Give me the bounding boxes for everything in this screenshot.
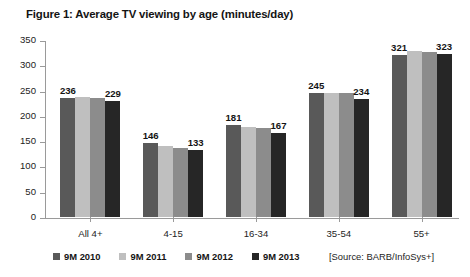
x-axis-category-label: 55+: [413, 228, 429, 239]
legend-label: 9M 2012: [196, 251, 232, 262]
bar[interactable]: [407, 51, 422, 217]
bar-value-label: 133: [183, 137, 209, 148]
bar-value-label: 321: [386, 42, 412, 53]
bar[interactable]: [309, 93, 324, 217]
x-axis-category-label: 16-34: [244, 228, 269, 239]
bar-value-label: 245: [303, 80, 329, 91]
x-axis-tick-mark: [339, 217, 340, 222]
legend-swatch-icon: [119, 253, 126, 260]
bar[interactable]: [226, 125, 241, 217]
bar[interactable]: [354, 99, 369, 217]
x-axis-category-label: 35-54: [327, 228, 352, 239]
y-axis-tick-mark: [40, 218, 45, 219]
bar-value-label: 229: [100, 88, 126, 99]
legend-item[interactable]: 9M 2011: [119, 251, 166, 262]
bar-group: 24523435-54: [308, 40, 370, 217]
figure-container: Figure 1: Average TV viewing by age (min…: [0, 0, 470, 277]
legend-label: 9M 2013: [263, 251, 299, 262]
legend-item[interactable]: 9M 2012: [185, 251, 232, 262]
legend-item[interactable]: 9M 2013: [252, 251, 299, 262]
bar[interactable]: [422, 52, 437, 217]
bar[interactable]: [256, 128, 271, 218]
chart-legend: 9M 20109M 20119M 20129M 2013: [53, 251, 318, 262]
bar-value-label: 323: [431, 41, 457, 52]
bar-group: 236229All 4+: [59, 40, 121, 217]
bar[interactable]: [241, 127, 256, 217]
y-axis-tick-label: 0: [31, 211, 36, 222]
y-axis-tick-label: 100: [20, 160, 36, 171]
bar-group: 18116716-34: [225, 40, 287, 217]
bar-group-bars: [59, 40, 121, 217]
bar[interactable]: [324, 93, 339, 217]
x-axis-tick-mark: [90, 217, 91, 222]
y-axis-line: [45, 41, 46, 219]
y-axis-tick-mark: [40, 66, 45, 67]
x-axis-tick-mark: [173, 217, 174, 222]
bar-value-label: 236: [55, 85, 81, 96]
y-axis-tick-label: 250: [20, 85, 36, 96]
chart-plot-area: 050100150200250300350 236229All 4+146133…: [45, 41, 459, 218]
bar-value-label: 146: [138, 130, 164, 141]
bar[interactable]: [75, 97, 90, 217]
y-axis-tick-mark: [40, 142, 45, 143]
y-axis-tick-mark: [40, 41, 45, 42]
y-axis-tick-label: 50: [25, 186, 36, 197]
y-axis-tick-label: 200: [20, 110, 36, 121]
x-axis-category-label: 4-15: [164, 228, 183, 239]
bar[interactable]: [158, 146, 173, 217]
legend-swatch-icon: [185, 253, 192, 260]
y-axis-tick-mark: [40, 193, 45, 194]
legend-swatch-icon: [252, 253, 259, 260]
bar[interactable]: [105, 101, 120, 217]
legend-swatch-icon: [53, 253, 60, 260]
legend-label: 9M 2010: [64, 251, 100, 262]
bar[interactable]: [437, 54, 452, 217]
bar-group-bars: [308, 40, 370, 217]
bar[interactable]: [60, 98, 75, 217]
source-note: [Source: BARB/InfoSys+]: [329, 251, 434, 262]
bar-value-label: 181: [221, 112, 247, 123]
y-axis-tick-label: 350: [20, 34, 36, 45]
bar-group-bars: [142, 40, 204, 217]
bar[interactable]: [143, 143, 158, 217]
legend-label: 9M 2011: [130, 251, 166, 262]
x-axis-line: [45, 218, 459, 219]
bar-group: 32132355+: [391, 40, 453, 217]
legend-item[interactable]: 9M 2010: [53, 251, 100, 262]
bar[interactable]: [271, 133, 286, 217]
page-title: Figure 1: Average TV viewing by age (min…: [26, 8, 293, 20]
bar[interactable]: [339, 93, 354, 217]
x-axis-tick-mark: [422, 217, 423, 222]
bar[interactable]: [173, 148, 188, 217]
y-axis-tick-mark: [40, 167, 45, 168]
bar[interactable]: [392, 55, 407, 217]
y-axis-tick-label: 150: [20, 135, 36, 146]
x-axis-category-label: All 4+: [78, 228, 102, 239]
y-axis-tick-mark: [40, 117, 45, 118]
y-axis-tick-label: 300: [20, 59, 36, 70]
bar-value-label: 234: [348, 86, 374, 97]
bar-value-label: 167: [266, 120, 292, 131]
bar[interactable]: [188, 150, 203, 217]
x-axis-tick-mark: [256, 217, 257, 222]
bar-group: 1461334-15: [142, 40, 204, 217]
bar-group-bars: [391, 40, 453, 217]
bar[interactable]: [90, 98, 105, 217]
y-axis-tick-mark: [40, 92, 45, 93]
